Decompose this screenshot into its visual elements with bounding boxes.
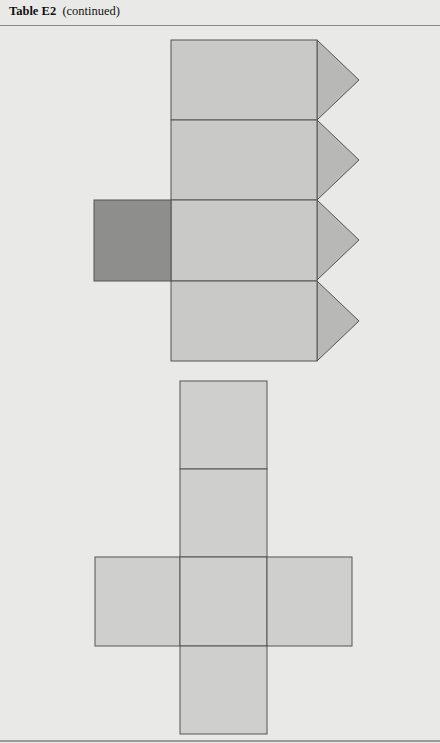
- arm-left: [95, 557, 180, 646]
- face-2: [171, 120, 317, 200]
- face-1: [171, 40, 317, 120]
- flap-1: [317, 40, 359, 120]
- flap-2: [317, 120, 359, 200]
- cube-net: [95, 381, 352, 734]
- arm-right: [267, 557, 352, 646]
- face-4: [171, 281, 317, 361]
- column-upper: [180, 469, 267, 557]
- nets-figure: [0, 0, 440, 743]
- bottom-rule: [0, 740, 440, 742]
- prism-net: [94, 40, 359, 361]
- face-3: [171, 200, 317, 281]
- column-top: [180, 381, 267, 469]
- dark-face: [94, 200, 171, 281]
- center: [180, 557, 267, 646]
- column-bottom: [180, 646, 267, 734]
- flap-3: [317, 200, 359, 280]
- flap-4: [317, 281, 359, 361]
